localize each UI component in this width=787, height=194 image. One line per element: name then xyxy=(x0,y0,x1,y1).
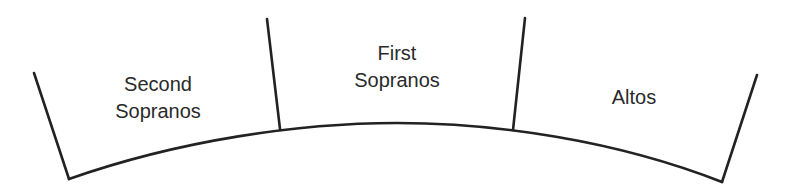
section-label-line1: Second xyxy=(115,71,201,98)
section-label-line2: Sopranos xyxy=(354,67,440,94)
section-label-line1: Altos xyxy=(612,84,656,111)
right-edge-line xyxy=(722,75,757,182)
choir-seating-diagram: Second Sopranos First Sopranos Altos xyxy=(0,0,787,194)
divider-second-first xyxy=(267,19,280,129)
left-edge-line xyxy=(34,73,69,179)
section-label-line2: Sopranos xyxy=(115,98,201,125)
section-label-line1: First xyxy=(354,40,440,67)
section-label-first-sopranos: First Sopranos xyxy=(354,40,440,94)
divider-first-altos xyxy=(513,18,525,130)
section-label-second-sopranos: Second Sopranos xyxy=(115,71,201,125)
front-arc xyxy=(69,123,722,182)
section-label-altos: Altos xyxy=(612,84,656,111)
